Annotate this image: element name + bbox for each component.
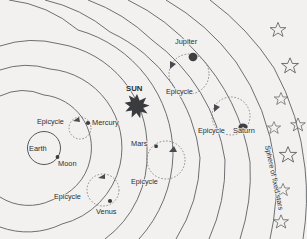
ptolemaic-diagram: Earth Moon SUN Mercury Epicycle Venus Ep… bbox=[0, 0, 307, 239]
moon-label: Moon bbox=[58, 159, 77, 168]
epicycle-saturn-arrow bbox=[214, 104, 220, 112]
epicycle-mercury-arrow bbox=[73, 117, 80, 122]
jupiter-label: Jupiter bbox=[175, 37, 198, 46]
epicycle-jupiter-arrow bbox=[170, 61, 176, 69]
mars-label: Mars bbox=[131, 139, 148, 148]
epicycle-venus-circle bbox=[87, 174, 119, 206]
deferent-outer-planetary bbox=[128, 0, 250, 239]
deferent-jupiter bbox=[45, 0, 200, 239]
sun-body bbox=[125, 94, 150, 118]
fixed-stars-group bbox=[267, 22, 305, 228]
labels-group: Earth Moon SUN Mercury Epicycle Venus Ep… bbox=[29, 37, 286, 216]
star-icon bbox=[274, 215, 289, 228]
star-icon bbox=[270, 22, 286, 36]
venus-body bbox=[108, 199, 112, 203]
sphere-of-fixed-stars bbox=[166, 0, 307, 239]
mercury-label: Mercury bbox=[92, 118, 119, 127]
epicycle-venus-label: Epicycle bbox=[54, 192, 81, 201]
sun-label: SUN bbox=[126, 84, 143, 93]
star-icon bbox=[282, 58, 299, 73]
epicycle-mercury-label: Epicycle bbox=[37, 117, 64, 126]
star-icon bbox=[267, 122, 280, 134]
deferent-sun bbox=[0, 41, 147, 239]
mercury-body bbox=[86, 121, 90, 125]
deferent-mars bbox=[9, 0, 173, 239]
epicycle-mars-circle bbox=[147, 141, 185, 179]
star-icon bbox=[279, 147, 296, 162]
fixed-stars-outer-arc bbox=[210, 0, 307, 239]
epicycle-jupiter-label: Epicycle bbox=[166, 87, 193, 96]
jupiter-body bbox=[189, 53, 198, 61]
epicycle-saturn-label: Epicycle bbox=[198, 126, 225, 135]
epicycle-mars-label: Epicycle bbox=[131, 177, 158, 186]
diagram-canvas: Earth Moon SUN Mercury Epicycle Venus Ep… bbox=[0, 0, 307, 239]
earth-label: Earth bbox=[29, 144, 47, 153]
mars-body bbox=[154, 145, 157, 148]
venus-label: Venus bbox=[96, 207, 117, 216]
star-icon bbox=[274, 92, 288, 104]
saturn-label: Saturn bbox=[233, 126, 255, 135]
